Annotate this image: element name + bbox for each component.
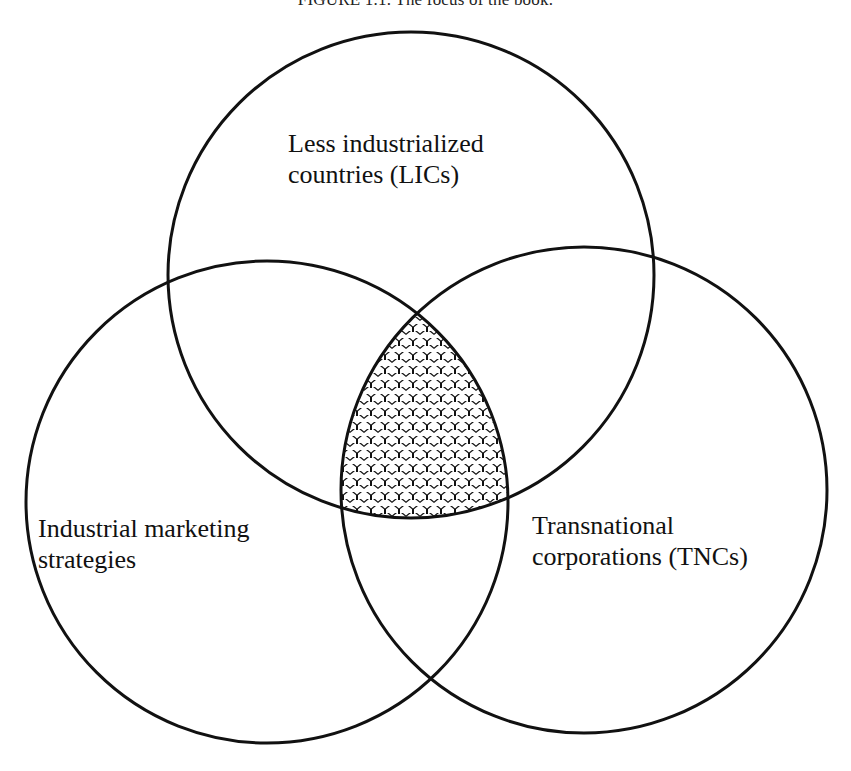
label-ims-line2: strategies <box>38 544 250 575</box>
label-tncs-line2: corporations (TNCs) <box>532 541 748 572</box>
triple-intersection-region <box>341 247 827 733</box>
label-tncs: Transnational corporations (TNCs) <box>532 510 748 572</box>
label-ims-line1: Industrial marketing <box>38 513 250 544</box>
label-industrial-marketing: Industrial marketing strategies <box>38 513 250 575</box>
label-tncs-line1: Transnational <box>532 510 748 541</box>
venn-diagram <box>0 0 851 771</box>
label-lics-line2: countries (LICs) <box>288 159 484 190</box>
label-lics-line1: Less industrialized <box>288 128 484 159</box>
label-lics: Less industrialized countries (LICs) <box>288 128 484 190</box>
